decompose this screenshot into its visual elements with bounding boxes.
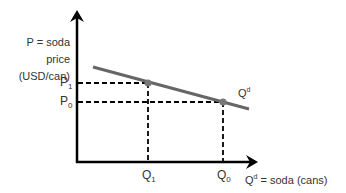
p1-base: P: [60, 75, 68, 89]
q0-sub: 0: [226, 175, 230, 184]
curve-label-sup: d: [247, 86, 251, 93]
p0-sub: 0: [68, 101, 72, 110]
y-label-line2: price: [19, 51, 70, 68]
curve-label-base: Q: [238, 87, 247, 99]
curve-label: Qd: [238, 86, 250, 99]
x-label-base: Q: [245, 174, 254, 186]
y-label-line1: P = soda: [19, 34, 70, 51]
demand-diagram: [0, 0, 346, 193]
x-axis: [76, 155, 258, 169]
x-axis-label: Qd = soda (cans): [245, 173, 327, 186]
tick-q0: Q0: [217, 168, 231, 184]
x-label-rest: = soda (cans): [257, 174, 327, 186]
tick-q1: Q1: [142, 168, 156, 184]
point-p1-q1: [145, 80, 152, 87]
q1-sub: 1: [151, 175, 155, 184]
point-p0-q0: [220, 99, 227, 106]
p1-sub: 1: [68, 82, 72, 91]
p0-base: P: [60, 94, 68, 108]
q1-base: Q: [142, 168, 151, 182]
q0-base: Q: [217, 168, 226, 182]
tick-p1: P1: [60, 75, 72, 91]
tick-p0: P0: [60, 94, 72, 110]
